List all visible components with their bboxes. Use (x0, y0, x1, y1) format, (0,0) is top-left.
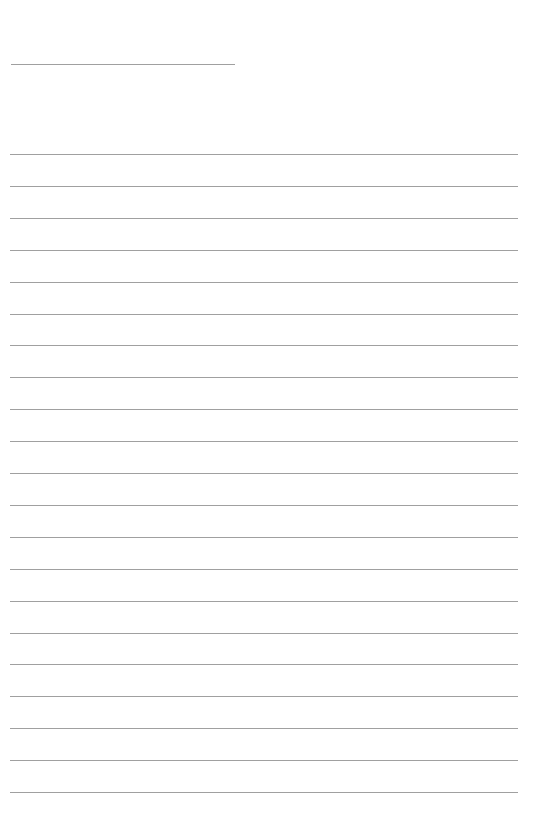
ruled-line (10, 314, 518, 315)
ruled-line (10, 696, 518, 697)
ruled-line (10, 569, 518, 570)
ruled-line (10, 601, 518, 602)
ruled-line (10, 186, 518, 187)
ruled-line (10, 218, 518, 219)
ruled-line (10, 473, 518, 474)
ruled-line (10, 537, 518, 538)
ruled-line (10, 377, 518, 378)
ruled-line (10, 409, 518, 410)
ruled-line (10, 250, 518, 251)
ruled-line (10, 505, 518, 506)
ruled-line (10, 760, 518, 761)
ruled-line (10, 154, 518, 155)
ruled-lines-container (0, 0, 549, 835)
ruled-line (10, 282, 518, 283)
ruled-line (10, 441, 518, 442)
ruled-line (10, 664, 518, 665)
ruled-line (10, 792, 518, 793)
ruled-line (10, 345, 518, 346)
ruled-line (10, 728, 518, 729)
lined-paper-page (0, 0, 549, 835)
ruled-line (10, 633, 518, 634)
